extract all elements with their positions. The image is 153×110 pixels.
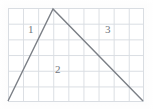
figure-canvas: 1 2 3 [0,0,153,110]
peak-line-figure [0,0,153,110]
region-label-1: 1 [28,24,34,35]
region-label-2: 2 [55,64,61,75]
region-label-3: 3 [105,24,111,35]
